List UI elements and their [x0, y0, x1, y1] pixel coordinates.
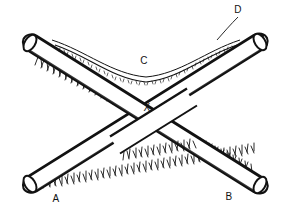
figure-canvas: D C X A B — [0, 0, 293, 217]
label-x: X — [144, 102, 151, 113]
crossed-rods-illustration: D C X A B — [0, 0, 293, 217]
label-b: B — [226, 191, 233, 202]
leader-line-d — [217, 17, 238, 40]
label-d: D — [234, 4, 241, 15]
label-a: A — [53, 193, 60, 204]
label-c: C — [140, 55, 147, 66]
